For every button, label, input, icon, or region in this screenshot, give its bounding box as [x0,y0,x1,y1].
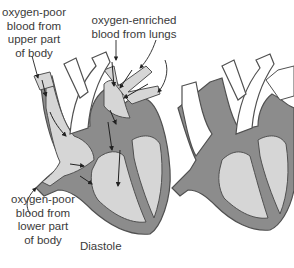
label-lungs: oxygen-enriched blood from lungs [84,14,184,41]
label-lower-body: oxygen-poor blood from lower part of bod… [10,193,76,247]
heart-diastole-diagram: oxygen-poor blood from upper part of bod… [0,0,294,268]
figure-caption: Diastole [80,240,120,254]
label-upper-body: oxygen-poor blood from upper part of bod… [2,6,66,60]
heart-right [172,54,294,230]
